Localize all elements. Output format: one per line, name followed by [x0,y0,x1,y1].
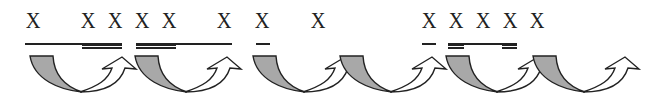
curved-arrow-icon [30,56,136,92]
curved-arrow-icon [135,56,241,92]
arrow-chain [0,0,669,108]
diagram: XXXXXXXXXXXXX [0,0,669,108]
curved-arrow-icon [340,56,446,92]
curved-arrow-icon [533,56,639,92]
